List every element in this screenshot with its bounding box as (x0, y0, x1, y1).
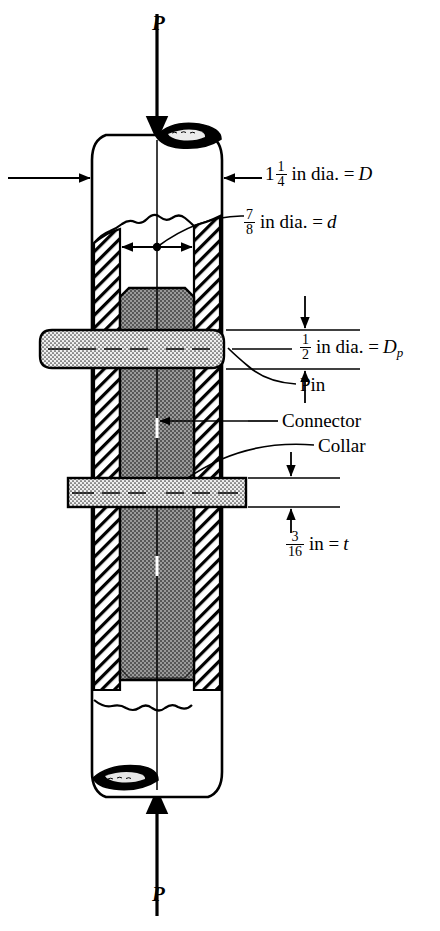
dim-Dp-symbol: D (383, 336, 397, 357)
dim-Dp-fraction: 12 (300, 333, 311, 363)
load-label-top: P (152, 13, 165, 34)
dim-d-fraction: 78 (244, 208, 255, 238)
tube-wall-left-section (94, 229, 120, 690)
dimension-label-D: 114 in dia. = D (265, 160, 372, 190)
dimension-label-d: 78 in dia. = d (243, 208, 336, 238)
dim-t-symbol: t (343, 533, 348, 554)
dim-d-symbol: d (327, 211, 337, 232)
callout-pin-leader (228, 348, 296, 384)
dim-D-fraction: 14 (276, 160, 287, 190)
dim-t-fraction: 316 (286, 530, 304, 560)
collar-component (68, 478, 246, 507)
figure-canvas (0, 0, 440, 931)
dimension-label-t: 316 in = t (285, 530, 349, 560)
dim-Dp-subscript: p (397, 345, 404, 360)
callout-label-pin: Pin (300, 375, 325, 394)
dim-Dp-unit: in dia. = (316, 336, 379, 357)
tube-wall-right-section (194, 216, 220, 690)
load-label-bottom: P (152, 884, 165, 905)
dim-D-unit: in dia. = (292, 163, 355, 184)
dim-d-unit: in dia. = (260, 211, 323, 232)
dimension-t-leader (248, 452, 340, 533)
tube-top-rim (156, 123, 221, 148)
callout-label-collar: Collar (318, 436, 366, 455)
dim-D-whole: 1 (265, 163, 275, 184)
dim-t-unit: in = (309, 533, 339, 554)
pin-component (40, 330, 224, 368)
callout-label-connector: Connector (282, 411, 361, 430)
dimension-label-Dp: 12 in dia. = Dp (299, 333, 403, 363)
dim-D-symbol: D (358, 163, 372, 184)
